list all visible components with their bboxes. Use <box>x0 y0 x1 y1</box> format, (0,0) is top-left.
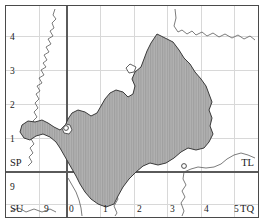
gridline-label-north-9: 9 <box>10 183 15 193</box>
map-linework <box>6 6 257 216</box>
map-figure: 4 3 2 1 9 SP SU TL TQ 9 0 1 2 3 4 5 <box>0 0 265 224</box>
grid-square-label-tl: TL <box>241 158 254 169</box>
grid-square-label-tq: TQ <box>240 204 254 215</box>
grid-square-label-sp: SP <box>10 158 22 169</box>
coastline-northeast <box>174 9 255 40</box>
gridline-label-east-9: 9 <box>44 205 49 215</box>
gridline-label-east-5: 5 <box>234 205 239 215</box>
gridline-label-north-1: 1 <box>10 135 15 145</box>
settlement-marker <box>182 164 187 169</box>
grid-square-label-su: SU <box>10 204 23 215</box>
map-neatline-frame: 4 3 2 1 9 SP SU TL TQ 9 0 1 2 3 4 5 <box>5 5 259 218</box>
gridline-label-east-0: 0 <box>69 205 74 215</box>
gridline-label-north-4: 4 <box>10 33 15 43</box>
gridline-label-east-4: 4 <box>204 205 209 215</box>
gridline-label-north-2: 2 <box>10 101 15 111</box>
gridline-label-east-3: 3 <box>170 205 175 215</box>
river-thames-estuary <box>181 172 186 216</box>
boundary-line-west <box>28 9 56 166</box>
region-inlet-north <box>126 64 136 73</box>
gridline-label-east-1: 1 <box>103 205 108 215</box>
gridline-label-east-2: 2 <box>137 205 142 215</box>
gridline-label-north-3: 3 <box>10 67 15 77</box>
